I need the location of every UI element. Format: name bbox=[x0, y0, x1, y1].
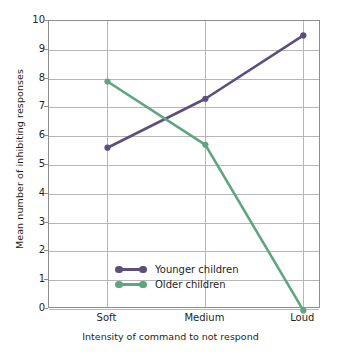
y-tick-label-6: 6 bbox=[19, 130, 45, 140]
y-tick-label-0: 0 bbox=[19, 303, 45, 313]
legend-swatch-younger-children bbox=[115, 264, 147, 275]
y-tick-label-10: 10 bbox=[19, 15, 45, 25]
series-line-younger-children bbox=[107, 35, 303, 147]
legend-swatch-older-children bbox=[115, 279, 147, 290]
y-tick-label-4: 4 bbox=[19, 188, 45, 198]
chart-figure: Mean number of inhibiting responses 0123… bbox=[0, 0, 341, 356]
legend-item-older-children: Older children bbox=[115, 277, 239, 292]
legend-item-younger-children: Younger children bbox=[115, 262, 239, 277]
x-tick-label-soft: Soft bbox=[71, 312, 141, 323]
data-point-younger-children-soft bbox=[104, 145, 110, 151]
gridline-y-0 bbox=[49, 309, 319, 310]
y-tick-label-9: 9 bbox=[19, 44, 45, 54]
chart-legend: Younger children Older children bbox=[115, 262, 239, 292]
y-tick-label-7: 7 bbox=[19, 101, 45, 111]
y-tick-label-2: 2 bbox=[19, 245, 45, 255]
x-tick-label-loud: Loud bbox=[267, 312, 337, 323]
x-axis-title: Intensity of command to not respond bbox=[0, 331, 341, 342]
data-point-older-children-soft bbox=[104, 78, 110, 84]
y-tick-label-5: 5 bbox=[19, 159, 45, 169]
data-point-older-children-medium bbox=[202, 142, 208, 148]
legend-label-older-children: Older children bbox=[147, 279, 226, 290]
data-point-younger-children-loud bbox=[300, 32, 306, 38]
x-tick-label-medium: Medium bbox=[169, 312, 239, 323]
data-point-younger-children-medium bbox=[202, 96, 208, 102]
y-tick-label-8: 8 bbox=[19, 73, 45, 83]
legend-label-younger-children: Younger children bbox=[147, 264, 239, 275]
y-tick-label-1: 1 bbox=[19, 274, 45, 284]
y-tick-mark-0 bbox=[44, 308, 48, 309]
plot-area: Younger children Older children bbox=[48, 20, 320, 308]
y-tick-label-3: 3 bbox=[19, 217, 45, 227]
